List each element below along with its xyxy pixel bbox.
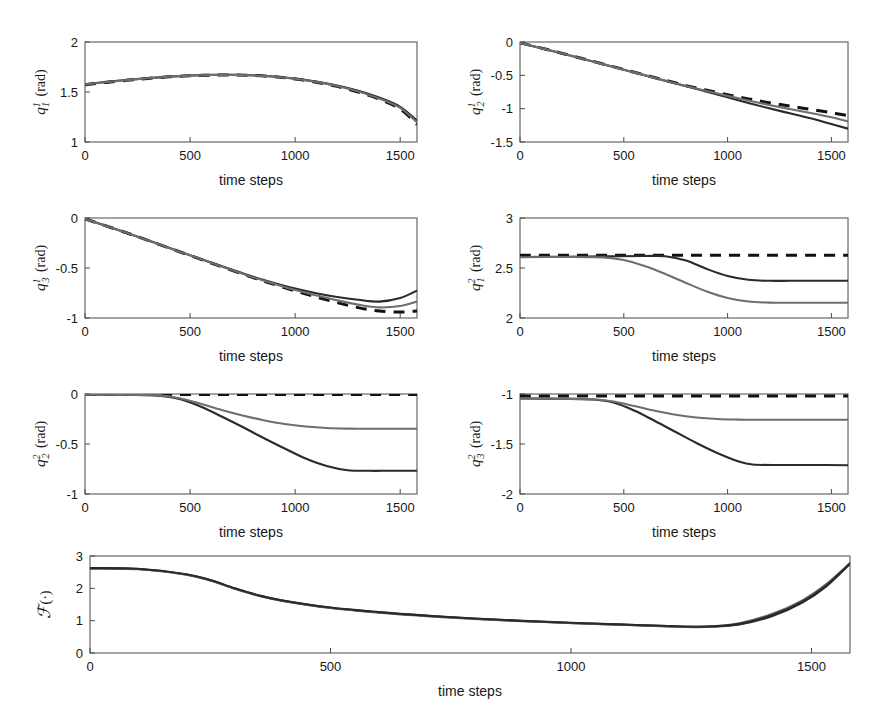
x-tick-label: 500: [179, 148, 201, 163]
y-tick-label: 2: [76, 581, 83, 596]
y-axis-title: q21 (rad): [466, 245, 486, 292]
series-trajectory-dark: [85, 219, 417, 302]
y-tick-label: -0.5: [56, 437, 78, 452]
curve-group: [520, 43, 848, 129]
curve-group: [520, 255, 848, 303]
y-tick-label: -1.5: [491, 437, 513, 452]
y-tick-label: -1: [66, 311, 78, 326]
curve-group: [85, 219, 417, 312]
plot-panel-q3-1: -1-0.50050010001500time stepsq13 (rad): [0, 194, 446, 370]
x-tick-label: 500: [613, 500, 635, 515]
plot-frame: [85, 394, 417, 494]
series-trajectory-dark: [85, 75, 417, 121]
plot-panel-q2-1: -1.5-1-0.50050010001500time stepsq12 (ra…: [446, 18, 893, 194]
plot-panel-q1-1: 11.52050010001500time stepsq11 (rad): [0, 18, 446, 194]
plot-frame: [90, 556, 850, 653]
x-tick-label: 1000: [557, 659, 586, 674]
x-tick-label: 1000: [281, 148, 310, 163]
curve-group: [90, 563, 850, 627]
x-tick-label: 0: [516, 324, 523, 339]
x-tick-label: 1000: [713, 148, 742, 163]
series-trajectory-light: [85, 75, 417, 123]
curve-group: [520, 396, 848, 465]
y-tick-label: 0: [71, 211, 78, 226]
series-trajectory-dark: [520, 399, 848, 466]
figure-root: 11.52050010001500time stepsq11 (rad)-1.5…: [0, 0, 893, 723]
series-cost-reference: [90, 563, 850, 626]
series-trajectory-dark: [520, 256, 848, 281]
y-tick-label: 2: [506, 311, 513, 326]
plot-panel-q2-2: -1-0.50050010001500time stepsq22 (rad): [0, 370, 446, 546]
y-axis-title: q22 (rad): [31, 421, 51, 468]
y-tick-label: 1.5: [60, 85, 78, 100]
x-tick-label: 0: [81, 148, 88, 163]
x-tick-label: 0: [86, 659, 93, 674]
x-tick-label: 500: [179, 324, 201, 339]
y-tick-label: -0.5: [56, 261, 78, 276]
x-tick-label: 500: [179, 500, 201, 515]
y-tick-label: 0: [506, 35, 513, 50]
x-tick-label: 1000: [281, 324, 310, 339]
x-tick-label: 1000: [281, 500, 310, 515]
x-axis-title: time steps: [438, 683, 502, 699]
x-tick-label: 1500: [817, 500, 846, 515]
x-tick-label: 500: [613, 324, 635, 339]
x-tick-label: 0: [81, 324, 88, 339]
y-axis-title: q23 (rad): [466, 421, 486, 468]
y-axis-title: q13 (rad): [31, 245, 51, 292]
x-tick-label: 0: [516, 500, 523, 515]
x-axis-title: time steps: [652, 348, 716, 364]
x-tick-label: 1500: [386, 324, 415, 339]
plot-panel-cost-F: 0123050010001500time stepsℱ(·): [0, 534, 893, 723]
x-tick-label: 500: [320, 659, 342, 674]
plot-frame: [85, 218, 417, 318]
y-tick-label: 1: [76, 613, 83, 628]
plot-frame: [85, 42, 417, 142]
y-tick-label: 3: [506, 211, 513, 226]
plot-frame: [520, 394, 848, 494]
y-tick-label: -0.5: [491, 68, 513, 83]
y-tick-label: -1: [501, 101, 513, 116]
series-trajectory-dark: [85, 395, 417, 471]
plot-panel-q1-2: 22.53050010001500time stepsq21 (rad): [446, 194, 893, 370]
y-tick-label: -1: [66, 487, 78, 502]
x-tick-label: 1000: [713, 324, 742, 339]
curve-group: [85, 395, 417, 471]
y-tick-label: 3: [76, 549, 83, 564]
plot-frame: [520, 42, 848, 142]
x-tick-label: 0: [81, 500, 88, 515]
y-tick-label: 2: [71, 35, 78, 50]
series-trajectory-light: [520, 399, 848, 420]
x-tick-label: 1500: [386, 500, 415, 515]
series-reference: [85, 75, 417, 124]
y-axis-title: q12 (rad): [466, 69, 486, 116]
x-tick-label: 1000: [713, 500, 742, 515]
y-tick-label: 0: [76, 646, 83, 661]
y-tick-label: 0: [71, 387, 78, 402]
plot-panel-q3-2: -2-1.5-1050010001500time stepsq23 (rad): [446, 370, 893, 546]
y-tick-label: 1: [71, 135, 78, 150]
x-tick-label: 1500: [797, 659, 826, 674]
y-tick-label: 2.5: [495, 261, 513, 276]
x-tick-label: 1500: [817, 324, 846, 339]
series-trajectory-light: [520, 43, 848, 122]
y-axis-title: ℱ(·): [35, 590, 54, 618]
x-tick-label: 500: [613, 148, 635, 163]
y-tick-label: -1: [501, 387, 513, 402]
x-tick-label: 0: [516, 148, 523, 163]
y-axis-title: q11 (rad): [31, 69, 51, 115]
series-trajectory-light: [85, 395, 417, 429]
series-trajectory-light: [85, 219, 417, 308]
series-reference: [520, 43, 848, 116]
x-tick-label: 1500: [817, 148, 846, 163]
curve-group: [85, 75, 417, 125]
y-tick-label: -1.5: [491, 135, 513, 150]
y-tick-label: -2: [501, 487, 513, 502]
x-axis-title: time steps: [219, 348, 283, 364]
x-axis-title: time steps: [219, 172, 283, 188]
series-reference: [85, 219, 417, 312]
x-axis-title: time steps: [652, 172, 716, 188]
x-tick-label: 1500: [386, 148, 415, 163]
